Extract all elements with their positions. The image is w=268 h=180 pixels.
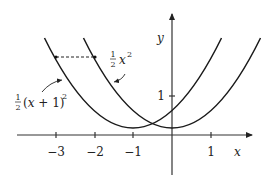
graph-canvas: −3 −2 −1 1 1 x y 1 2 x 2 1 2 (x + 1) 2 [0, 0, 268, 180]
svg-text:2: 2 [127, 50, 132, 59]
svg-text:(x + 1): (x + 1) [23, 96, 64, 110]
svg-text:2: 2 [15, 103, 20, 112]
x-tick-label-neg3: −3 [47, 145, 65, 159]
svg-text:1: 1 [110, 50, 115, 59]
svg-text:1: 1 [15, 93, 20, 102]
curve-half-x-plus-one-squared [45, 38, 222, 128]
y-axis-label: y [156, 31, 164, 45]
label-arrow-half-x-plus-one-squared [42, 80, 62, 92]
label-half-x-plus-one-squared: 1 2 (x + 1) 2 [15, 92, 67, 112]
svg-text:x: x [119, 53, 126, 67]
label-half-x-squared: 1 2 x 2 [110, 50, 132, 69]
x-tick-label-neg2: −2 [86, 145, 104, 159]
y-tick-label-1: 1 [157, 89, 165, 103]
x-axis-label: x [234, 145, 241, 159]
svg-text:2: 2 [62, 92, 67, 101]
dashed-endpoint-left [54, 55, 57, 58]
svg-text:2: 2 [110, 60, 115, 69]
dashed-endpoint-right [93, 55, 96, 58]
x-tick-label-1: 1 [207, 145, 215, 159]
x-tick-label-neg1: −1 [124, 145, 142, 159]
label-arrow-half-x-squared [114, 74, 125, 82]
